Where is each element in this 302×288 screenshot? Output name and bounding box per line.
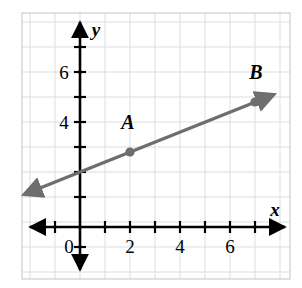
point-b-marker xyxy=(250,97,259,106)
point-b-label: B xyxy=(248,61,262,83)
origin-label: 0 xyxy=(64,236,74,257)
graph-canvas: A B x y 0 2 4 6 4 6 xyxy=(0,0,302,288)
x-axis-name: x xyxy=(269,199,280,220)
point-a-marker xyxy=(125,147,134,156)
x-tick-label-6: 6 xyxy=(225,236,235,257)
x-tick-label-4: 4 xyxy=(175,236,185,257)
plot-background xyxy=(22,13,290,279)
coordinate-plane-figure: A B x y 0 2 4 6 4 6 xyxy=(0,0,302,288)
y-tick-label-6: 6 xyxy=(59,62,69,83)
x-tick-label-2: 2 xyxy=(125,236,135,257)
y-axis-name: y xyxy=(90,19,101,40)
y-tick-label-4: 4 xyxy=(59,112,69,133)
point-a-label: A xyxy=(119,111,134,133)
